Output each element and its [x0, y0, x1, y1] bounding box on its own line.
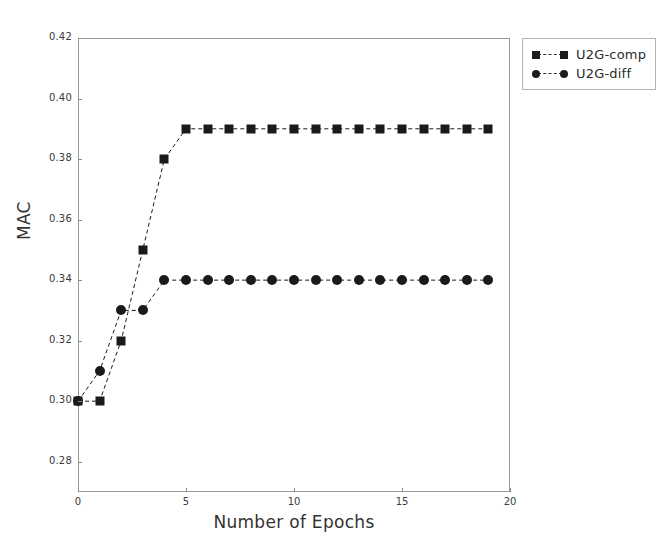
legend-box: U2G-comp U2G-diff: [522, 38, 656, 90]
data-point-marker: [290, 124, 299, 133]
legend-item-u2g-diff[interactable]: U2G-diff: [530, 64, 646, 83]
y-axis-tick-labels: 0.280.300.320.340.360.380.400.42: [0, 0, 72, 550]
data-point-marker: [311, 124, 320, 133]
legend-square-marker-icon: [532, 51, 540, 59]
data-point-marker: [397, 275, 407, 285]
data-point-marker: [419, 275, 429, 285]
data-point-marker: [95, 366, 105, 376]
data-point-marker: [246, 124, 255, 133]
data-point-marker: [181, 275, 191, 285]
y-tick-label: 0.42: [49, 31, 72, 42]
x-tick-label: 20: [504, 496, 517, 507]
figure-canvas: 0.280.300.320.340.360.380.400.42 0510152…: [0, 0, 671, 550]
y-axis-label: MAC: [14, 201, 34, 240]
x-tick-label: 0: [75, 496, 81, 507]
data-point-marker: [354, 275, 364, 285]
data-point-marker: [138, 245, 147, 254]
data-point-marker: [159, 275, 169, 285]
data-point-marker: [311, 275, 321, 285]
x-axis-label: Number of Epochs: [78, 512, 510, 532]
plot-area: [78, 38, 510, 492]
data-point-marker: [116, 305, 126, 315]
data-point-marker: [332, 275, 342, 285]
x-tick-label: 15: [396, 496, 409, 507]
y-tick-mark: [78, 38, 82, 39]
data-point-marker: [160, 155, 169, 164]
data-point-marker: [203, 124, 212, 133]
legend-item-u2g-comp[interactable]: U2G-comp: [530, 45, 646, 64]
x-tick-label: 5: [183, 496, 189, 507]
x-tick-mark: [402, 488, 403, 492]
y-tick-label: 0.36: [49, 213, 72, 224]
y-tick-mark: [78, 280, 82, 281]
data-point-marker: [225, 124, 234, 133]
legend-dash-line: [538, 54, 562, 55]
x-tick-mark: [294, 488, 295, 492]
data-point-marker: [289, 275, 299, 285]
data-point-marker: [117, 336, 126, 345]
legend-circle-marker-icon: [532, 70, 540, 78]
data-point-marker: [462, 124, 471, 133]
legend-dash-line: [538, 73, 562, 74]
data-point-marker: [484, 124, 493, 133]
x-tick-label: 10: [288, 496, 301, 507]
legend-swatch-square-icon: [530, 49, 570, 61]
data-point-marker: [376, 124, 385, 133]
y-tick-label: 0.40: [49, 92, 72, 103]
data-point-marker: [441, 124, 450, 133]
data-point-marker: [182, 124, 191, 133]
y-tick-mark: [78, 341, 82, 342]
series-line: [78, 280, 488, 401]
data-point-marker: [483, 275, 493, 285]
y-tick-mark: [78, 401, 82, 402]
x-tick-mark: [186, 488, 187, 492]
data-point-marker: [440, 275, 450, 285]
data-point-marker: [224, 275, 234, 285]
y-tick-label: 0.32: [49, 334, 72, 345]
legend-swatch-circle-icon: [530, 68, 570, 80]
y-tick-label: 0.30: [49, 394, 72, 405]
legend-label: U2G-comp: [576, 47, 646, 62]
series-line: [78, 129, 488, 401]
data-point-marker: [268, 124, 277, 133]
data-point-marker: [333, 124, 342, 133]
data-point-marker: [138, 305, 148, 315]
data-point-marker: [375, 275, 385, 285]
data-point-marker: [398, 124, 407, 133]
legend-label: U2G-diff: [576, 66, 631, 81]
data-point-marker: [462, 275, 472, 285]
data-point-marker: [246, 275, 256, 285]
data-point-marker: [95, 397, 104, 406]
legend-circle-marker-icon: [560, 70, 568, 78]
data-point-marker: [203, 275, 213, 285]
data-point-marker: [354, 124, 363, 133]
series-line-layer: [78, 38, 510, 492]
y-tick-label: 0.38: [49, 152, 72, 163]
data-point-marker: [419, 124, 428, 133]
y-tick-mark: [78, 159, 82, 160]
x-tick-mark: [510, 488, 511, 492]
y-tick-mark: [78, 220, 82, 221]
y-tick-mark: [78, 99, 82, 100]
y-tick-label: 0.34: [49, 273, 72, 284]
y-tick-label: 0.28: [49, 455, 72, 466]
x-tick-mark: [78, 488, 79, 492]
legend-square-marker-icon: [560, 51, 568, 59]
y-tick-mark: [78, 462, 82, 463]
data-point-marker: [267, 275, 277, 285]
